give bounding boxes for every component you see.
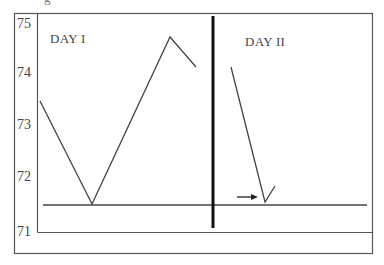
outer-frame <box>15 14 373 254</box>
day1-price-line <box>40 37 196 204</box>
price-chart: g 75 74 73 72 71 DAY I DAY II <box>0 0 384 265</box>
y-tick-72: 72 <box>17 170 31 184</box>
day2-price-line <box>231 67 275 202</box>
day1-label: DAY I <box>50 32 86 45</box>
arrow-right-icon <box>237 194 258 200</box>
y-tick-75: 75 <box>17 17 31 31</box>
y-tick-71: 71 <box>17 225 31 239</box>
day2-label: DAY II <box>245 35 285 48</box>
y-tick-74: 74 <box>17 66 31 80</box>
y-tick-73: 73 <box>17 118 31 132</box>
